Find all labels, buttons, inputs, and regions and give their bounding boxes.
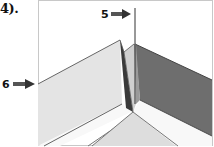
callout-label-6: 6 <box>2 79 10 91</box>
callout-label-5: 5 <box>101 9 109 21</box>
miter-joint-diagram <box>0 0 214 147</box>
arrow-right-icon <box>13 79 35 89</box>
